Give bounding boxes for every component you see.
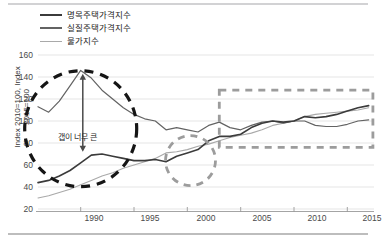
series-line-real	[38, 70, 369, 132]
gap-annotation-label: 갭이 너무 큰	[58, 131, 97, 142]
gap-arrow-head-down	[80, 146, 86, 152]
series-line-nominal	[38, 106, 369, 183]
